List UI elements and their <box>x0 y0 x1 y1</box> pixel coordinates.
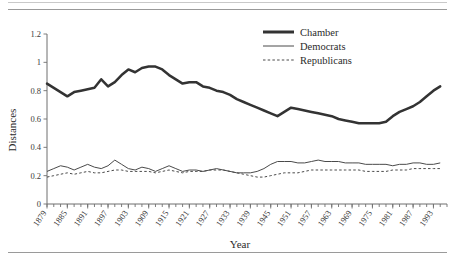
chart-legend: Chamber Democrats Republicans <box>263 27 352 66</box>
y-tick-label: 1 <box>37 57 41 67</box>
x-tick-label: 1915 <box>153 208 171 228</box>
x-tick-label: 1891 <box>71 208 89 228</box>
x-tick-label: 1885 <box>51 208 69 228</box>
x-tick-label: 1927 <box>193 208 211 228</box>
x-tick-label: 1969 <box>336 208 354 228</box>
y-tick-label: 0 <box>37 199 41 209</box>
x-tick-label: 1975 <box>356 208 374 228</box>
x-tick-label: 1921 <box>173 208 191 228</box>
x-tick-label: 1909 <box>132 208 150 228</box>
chart-plot-area: 00.20.40.60.811.2 1879188518911897190319… <box>0 0 455 266</box>
x-tick-label: 1903 <box>112 208 130 228</box>
x-tick-label: 1981 <box>376 208 394 228</box>
x-tick-label: 1939 <box>234 208 252 228</box>
x-tick-label: 1987 <box>397 208 415 228</box>
x-tick-label: 1993 <box>417 208 435 228</box>
x-tick-label: 1951 <box>275 208 293 228</box>
figure-container: 00.20.40.60.811.2 1879188518911897190319… <box>0 0 455 266</box>
x-tick-label: 1957 <box>295 208 313 228</box>
x-tick-label: 1933 <box>214 208 232 228</box>
series-line-chamber <box>47 67 440 124</box>
y-tick-label: 0.2 <box>30 171 41 181</box>
legend-label-democrats: Democrats <box>300 41 345 52</box>
y-tick-label: 0.6 <box>30 114 41 124</box>
y-tick-label: 0.8 <box>30 86 41 96</box>
y-tick-labels: 00.20.40.60.811.2 <box>30 29 41 209</box>
y-axis <box>44 34 48 204</box>
legend-label-chamber: Chamber <box>300 27 339 38</box>
x-tick-label: 1945 <box>254 208 272 228</box>
x-axis-title: Year <box>230 238 251 250</box>
series-line-democrats <box>47 160 440 173</box>
data-series-group <box>47 67 440 178</box>
legend-label-republicans: Republicans <box>300 55 352 66</box>
x-tick-labels: 1879188518911897190319091915192119271933… <box>31 208 435 228</box>
x-tick-label: 1963 <box>315 208 333 228</box>
y-tick-label: 0.4 <box>30 142 41 152</box>
y-axis-title: Distances <box>6 109 18 152</box>
y-tick-label: 1.2 <box>30 29 41 39</box>
x-tick-label: 1897 <box>92 208 110 228</box>
x-axis <box>47 204 447 209</box>
x-tick-label: 1879 <box>31 208 49 228</box>
